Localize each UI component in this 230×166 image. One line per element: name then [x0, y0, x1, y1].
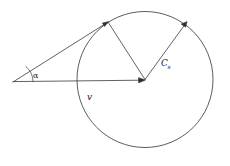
diagram-canvas: α v C s — [0, 0, 230, 166]
label-velocity: v — [87, 92, 92, 102]
sound-speed-vector-line — [145, 24, 185, 79]
radius-to-tangent-line — [108, 22, 145, 80]
angle-arc — [26, 66, 33, 82]
label-alpha: α — [33, 71, 39, 80]
label-sound-speed-subscript: s — [168, 63, 171, 70]
geometry-figure: α v C s — [0, 0, 230, 166]
tangent-line — [13, 23, 106, 82]
